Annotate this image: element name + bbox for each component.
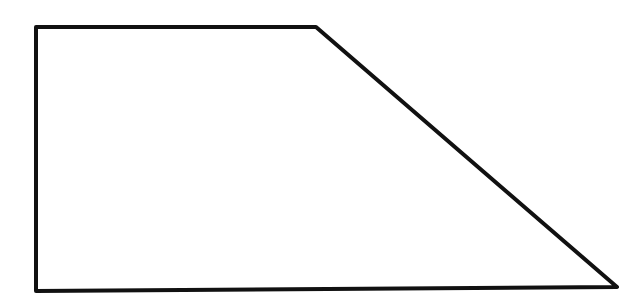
- trapezoid-shape: [36, 27, 617, 291]
- diagram-canvas: [0, 0, 641, 306]
